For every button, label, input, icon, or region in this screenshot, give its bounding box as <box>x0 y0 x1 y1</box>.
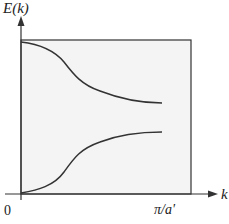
origin-label: 0 <box>4 203 11 219</box>
zone-boundary-tick-label: π/a' <box>154 202 175 218</box>
zone-box <box>21 40 191 194</box>
x-axis-label: k <box>221 186 228 203</box>
y-axis-arrow-icon <box>18 16 25 26</box>
x-axis-arrow-icon <box>208 191 218 198</box>
band-diagram-canvas <box>0 0 229 224</box>
y-axis-label: E(k) <box>3 0 29 17</box>
